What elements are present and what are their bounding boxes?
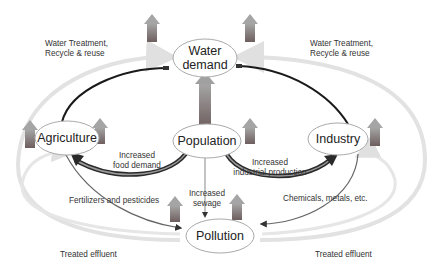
treatment-left-line1: Water Treatment, <box>45 39 108 48</box>
population-to-demand-arrow <box>195 72 215 128</box>
water-demand-label-2: demand <box>182 58 227 72</box>
treatment-left-line2: Recycle & reuse <box>45 49 105 58</box>
node-pollution[interactable]: Pollution <box>186 219 254 253</box>
chemicals-label: Chemicals, metals, etc. <box>283 194 368 203</box>
up-arrow-icon <box>242 118 258 144</box>
up-arrow-icon <box>144 14 160 42</box>
treatment-right-line2: Recycle & reuse <box>310 49 370 58</box>
industrial-line1: Increased <box>252 158 288 167</box>
node-agriculture[interactable]: Agriculture <box>35 121 99 155</box>
sewage-line1: Increased <box>189 189 225 198</box>
outer-cycle-top-left <box>18 57 170 165</box>
node-industry[interactable]: Industry <box>308 123 368 155</box>
water-cycle-diagram: Water demand Agriculture Population Indu… <box>0 0 435 264</box>
food-demand-line1: Increased <box>119 151 155 160</box>
up-arrow-icon <box>229 194 245 220</box>
node-population[interactable]: Population <box>173 124 241 158</box>
industry-to-demand-arrow <box>238 66 348 124</box>
up-arrow-icon <box>242 14 258 42</box>
water-demand-label-1: Water <box>189 44 222 58</box>
effluent-right-label: Treated effluent <box>315 250 373 259</box>
industry-label: Industry <box>316 132 361 146</box>
treatment-right-line1: Water Treatment, <box>310 39 373 48</box>
food-demand-line2: food demand <box>113 161 161 170</box>
up-arrow-icon <box>167 196 183 222</box>
sewage-line2: sewage <box>193 199 222 208</box>
fertilizers-label: Fertilizers and pesticides <box>69 196 159 205</box>
population-label: Population <box>177 134 236 148</box>
industrial-line2: industrial production <box>233 168 307 177</box>
agriculture-label: Agriculture <box>37 131 97 145</box>
pollution-label: Pollution <box>196 229 244 243</box>
effluent-left-label: Treated effluent <box>60 250 118 259</box>
node-water-demand[interactable]: Water demand <box>173 39 237 77</box>
up-arrow-icon <box>367 118 383 146</box>
